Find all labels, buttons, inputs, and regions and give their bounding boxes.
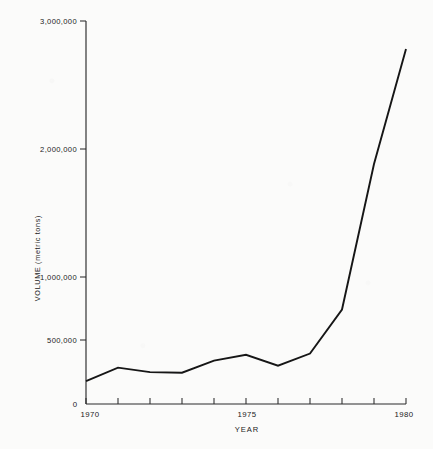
y-axis-title: VOLUME (metric tons) [33,215,42,301]
x-tick-label-1975: 1975 [237,410,256,419]
chart-container: 3,000,000 2,000,000 1,000,000 500,000 0 … [0,0,433,449]
y-tick-label-500000: 500,000 [47,336,77,345]
x-tick-label-1980: 1980 [394,410,413,419]
x-axis-title: YEAR [235,425,260,434]
x-tick-label-1970: 1970 [80,410,99,419]
y-tick-label-3000000: 3,000,000 [40,17,77,26]
volume-line-chart: 3,000,000 2,000,000 1,000,000 500,000 0 … [0,0,433,449]
y-tick-label-1000000: 1,000,000 [40,273,77,282]
y-tick-label-zero: 0 [73,400,78,409]
y-tick-label-2000000: 2,000,000 [40,145,77,154]
volume-series-line [86,49,406,381]
